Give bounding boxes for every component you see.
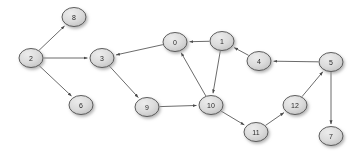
node-shape-10 — [199, 96, 223, 115]
graph-edge-0-to-3 — [116, 45, 163, 55]
graph-node-7[interactable]: 7 — [319, 127, 343, 146]
graph-edge-1-to-10 — [213, 51, 220, 93]
graph-node-1[interactable]: 1 — [210, 32, 234, 51]
graph-node-2[interactable]: 2 — [19, 49, 43, 68]
graph-edge-2-to-6 — [39, 66, 71, 96]
graph-edge-3-to-9 — [109, 66, 138, 97]
graph-node-3[interactable]: 3 — [90, 49, 114, 68]
graph-edge-2-to-8 — [39, 26, 64, 50]
node-shape-12 — [283, 96, 307, 115]
graph-edge-4-to-1 — [234, 48, 248, 56]
node-shape-11 — [244, 123, 268, 142]
graph-node-10[interactable]: 10 — [199, 96, 223, 115]
graph-node-0[interactable]: 0 — [163, 33, 187, 52]
nodes-layer: 0123456789101112 — [19, 8, 343, 146]
node-shape-4 — [247, 52, 271, 71]
graph-diagram: 0123456789101112 — [0, 0, 362, 156]
graph-node-8[interactable]: 8 — [62, 8, 86, 27]
graph-node-6[interactable]: 6 — [69, 96, 93, 115]
graph-node-4[interactable]: 4 — [247, 52, 271, 71]
node-shape-6 — [69, 96, 93, 115]
node-shape-3 — [90, 49, 114, 68]
node-shape-9 — [135, 98, 159, 117]
graph-edge-10-to-11 — [221, 111, 244, 125]
graph-node-5[interactable]: 5 — [319, 53, 343, 72]
graph-edge-10-to-0 — [181, 53, 206, 96]
node-shape-2 — [19, 49, 43, 68]
node-shape-0 — [163, 33, 187, 52]
graph-node-9[interactable]: 9 — [135, 98, 159, 117]
graph-node-12[interactable]: 12 — [283, 96, 307, 115]
node-shape-8 — [62, 8, 86, 27]
node-shape-5 — [319, 53, 343, 72]
graph-svg: 0123456789101112 — [0, 0, 362, 156]
graph-edge-11-to-12 — [265, 113, 283, 126]
graph-edge-12-to-5 — [302, 72, 323, 97]
graph-node-11[interactable]: 11 — [244, 123, 268, 142]
node-shape-7 — [319, 127, 343, 146]
graph-edge-5-to-4 — [274, 61, 319, 62]
graph-edge-9-to-10 — [159, 105, 196, 106]
node-shape-1 — [210, 32, 234, 51]
